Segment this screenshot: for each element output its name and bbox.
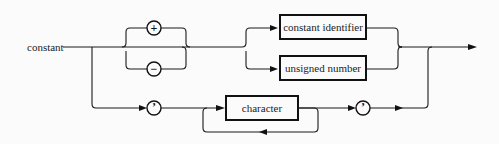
start-label: constant [27, 41, 64, 53]
arrow-icon [139, 105, 147, 111]
string-branch [92, 47, 140, 108]
arrow-icon [270, 66, 278, 72]
minus-symbol: − [151, 62, 158, 76]
ident-merge [366, 28, 402, 47]
constant-identifier-label: constant identifier [283, 21, 363, 33]
arrow-icon [270, 25, 278, 31]
exit-arrow-icon [468, 44, 477, 50]
plus-branch [122, 28, 148, 47]
minus-merge [161, 47, 186, 69]
string-merge [370, 47, 432, 108]
plus-merge [161, 28, 190, 47]
open-quote-symbol: ’ [152, 100, 156, 114]
close-quote-symbol: ’ [361, 100, 365, 114]
arrow-icon [395, 105, 403, 111]
arrow-icon [348, 105, 356, 111]
number-merge [366, 47, 402, 69]
unsigned-number-label: unsigned number [285, 62, 361, 74]
character-label: character [242, 102, 283, 114]
syntax-diagram: constant + − constant identifier unsigne… [0, 0, 499, 144]
arrow-icon [216, 105, 225, 111]
minus-branch [126, 51, 148, 69]
plus-symbol: + [151, 21, 158, 35]
loop-arrow-icon [259, 129, 267, 135]
